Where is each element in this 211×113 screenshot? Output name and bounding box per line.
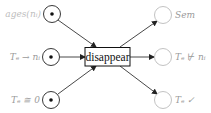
arc-output-3 [120,66,157,94]
token-icon [50,12,54,16]
arc-output-1 [120,21,157,47]
input-place-1 [44,6,61,23]
output-place-1 [155,7,172,24]
arc-input-3 [58,66,96,94]
arc-input-1 [58,20,96,47]
output-place-3 [155,92,172,109]
input-place-2 [43,49,60,66]
output-label-3: Tₑ ✓ [175,95,195,105]
output-label-2: Tₑ ⊬ nᵢ [175,52,206,62]
input-label-2: Tₑ → nᵢ [10,52,41,62]
transition-label: disappear [85,51,129,64]
token-icon [49,55,53,59]
output-place-2 [155,49,172,66]
input-place-3 [43,92,60,109]
token-icon [49,98,53,102]
input-label-1: ages(nᵢ) [5,9,41,19]
output-label-1: Sem [175,10,195,20]
input-label-3: Tₑ ≅ 0 [11,95,40,105]
petri-net-diagram: disappear ages(nᵢ) Tₑ → nᵢ Tₑ ≅ 0 Sem Tₑ… [0,0,211,113]
